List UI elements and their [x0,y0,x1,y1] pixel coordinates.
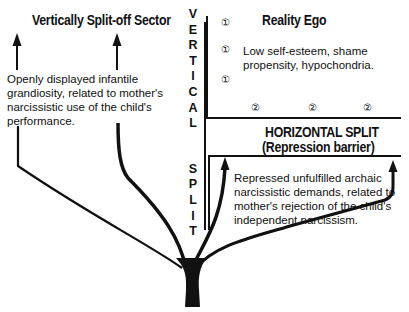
marker-two: ② [306,102,318,114]
vertical-split-letter: L [186,116,200,132]
vertical-split-letter: I [186,69,200,85]
tree-trunk [176,258,206,307]
middle-arrow-head-icon [113,33,122,46]
vertical-split-letter: L [186,193,200,209]
marker-one: ① [219,74,231,86]
horizontal-split-title: HORIZONTAL SPLIT [265,124,379,140]
repressed-left-arrow-head-icon [221,157,230,170]
marker-two: ② [361,102,373,114]
marker-one: ① [219,44,231,56]
left-branch [18,126,182,268]
vertical-split-letter: I [186,209,200,225]
vertical-split-letter: R [186,38,200,54]
vertical-split-letter: S [186,162,200,178]
repressed-demands-description: Repressed unfulfilled archaic narcissist… [234,171,399,227]
reality-ego-description: Low self-esteem, shame propensity, hypoc… [243,44,403,72]
repression-barrier-subtitle: (Repression barrier) [262,139,374,155]
vertical-split-letter: T [186,54,200,70]
marker-two: ② [249,102,261,114]
vertical-split-letter: V [186,7,200,23]
vertical-split-letter: A [186,101,200,117]
vertical-split-letter: C [186,85,200,101]
vertical-split-letter: T [186,224,200,240]
narcissism-split-diagram: Vertically Split-off Sector Openly displ… [0,0,409,312]
vertical-sector-description: Openly displayed infantile grandiosity, … [7,72,177,128]
reality-ego-title: Reality Ego [262,12,326,28]
vertically-split-off-sector-title: Vertically Split-off Sector [32,12,171,28]
vertical-split-letter: E [186,23,200,39]
vertical-split-label: V E R T I C A L S P L I T [186,7,200,240]
vertical-split-gap [186,132,200,162]
vertical-split-letter: P [186,177,200,193]
middle-left-branch [118,123,186,268]
marker-one: ① [219,17,231,29]
left-arrow-head-icon [13,33,22,46]
